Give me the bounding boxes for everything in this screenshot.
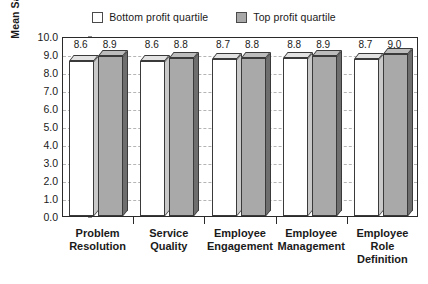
x-tick-mark [276, 217, 277, 224]
x-category-label-line: Role [347, 240, 418, 253]
x-category-label: EmployeeRoleDefinition [347, 227, 418, 266]
bar [212, 59, 237, 216]
bar-front-face [140, 61, 165, 216]
bar-top-face [354, 53, 384, 59]
y-tick-label: 8.0 [28, 68, 58, 79]
x-axis-ticks [62, 217, 418, 225]
x-category-label: ProblemResolution [62, 227, 133, 253]
y-tick-label: 7.0 [28, 86, 58, 97]
x-tick-mark [204, 217, 205, 224]
bar-value-label: 8.8 [166, 39, 196, 51]
bar-value-label: 8.8 [279, 39, 309, 51]
x-category-label: EmployeeManagement [276, 227, 347, 253]
bar [69, 61, 94, 216]
bar-value-label: 8.9 [95, 39, 125, 51]
y-tick-label: 9.0 [28, 50, 58, 61]
bar-front-face [212, 59, 237, 216]
x-tick-mark [347, 217, 348, 224]
bar-value-label: 8.6 [137, 39, 167, 51]
legend-swatch-bottom-icon [92, 12, 103, 23]
legend-item-top-profit-quartile: Top profit quartile [236, 11, 335, 23]
bar-value-label: 8.9 [308, 39, 338, 51]
x-category-label-line: Engagement [204, 240, 275, 253]
x-category-label-line: Resolution [62, 240, 133, 253]
bar-front-face [354, 59, 379, 216]
x-axis-category-labels: ProblemResolutionServiceQualityEmployeeE… [62, 227, 418, 283]
bar-value-label: 9.0 [379, 39, 409, 51]
x-category-label-line: Problem [62, 227, 133, 240]
bar-side-face [266, 52, 271, 216]
bar-value-label: 8.6 [66, 39, 96, 51]
bar-value-label: 8.8 [237, 39, 267, 51]
x-category-label-line: Quality [133, 240, 204, 253]
bar [383, 54, 408, 216]
y-tick-label: 2.0 [28, 176, 58, 187]
bar [283, 58, 308, 216]
y-axis-ticks: 10.09.08.07.06.05.04.03.02.01.00.0 [28, 37, 58, 217]
y-tick-label: 6.0 [28, 104, 58, 115]
x-category-label-line: Definition [347, 253, 418, 266]
chart-figure: Bottom profit quartile Top profit quarti… [0, 0, 428, 284]
bar-front-face [312, 56, 337, 216]
bar-front-face [283, 58, 308, 216]
bar-value-label: 8.7 [208, 39, 238, 51]
x-category-label-line: Employee [276, 227, 347, 240]
legend-swatch-top-icon [236, 12, 247, 23]
bar-side-face [408, 48, 413, 216]
bar [140, 61, 165, 216]
legend-label-top: Top profit quartile [253, 11, 335, 23]
legend-label-bottom: Bottom profit quartile [109, 11, 208, 23]
x-category-label: EmployeeEngagement [204, 227, 275, 253]
bar-front-face [169, 58, 194, 216]
bar-top-face [69, 55, 99, 61]
bar-front-face [383, 54, 408, 216]
bar-top-face [212, 53, 242, 59]
y-tick-label: 4.0 [28, 140, 58, 151]
bar-series-container [63, 38, 417, 216]
y-tick-label: 5.0 [28, 122, 58, 133]
y-tick-label: 0.0 [28, 212, 58, 223]
bar-side-face [194, 52, 199, 216]
chart-legend: Bottom profit quartile Top profit quarti… [0, 11, 428, 23]
bar-side-face [337, 50, 342, 216]
bar-top-face [140, 55, 170, 61]
x-category-label: ServiceQuality [133, 227, 204, 253]
legend-item-bottom-profit-quartile: Bottom profit quartile [92, 11, 208, 23]
bar-value-labels: 8.68.98.68.88.78.88.88.98.79.0 [62, 39, 418, 53]
bar [312, 56, 337, 216]
bar [169, 58, 194, 216]
bar-side-face [123, 50, 128, 216]
bar-front-face [69, 61, 94, 216]
bar [98, 56, 123, 216]
plot-area [62, 37, 418, 217]
x-category-label-line: Employee [204, 227, 275, 240]
bar [241, 58, 266, 216]
y-axis-title: Mean Satisfaction Rating [8, 0, 22, 65]
bar-value-label: 8.7 [350, 39, 380, 51]
x-category-label-line: Employee [347, 227, 418, 240]
y-tick-label: 1.0 [28, 194, 58, 205]
bar-front-face [241, 58, 266, 216]
y-tick-label: 10.0 [28, 32, 58, 43]
bar-front-face [98, 56, 123, 216]
bar [354, 59, 379, 216]
x-category-label-line: Service [133, 227, 204, 240]
y-tick-label: 3.0 [28, 158, 58, 169]
x-category-label-line: Management [276, 240, 347, 253]
x-tick-mark [133, 217, 134, 224]
